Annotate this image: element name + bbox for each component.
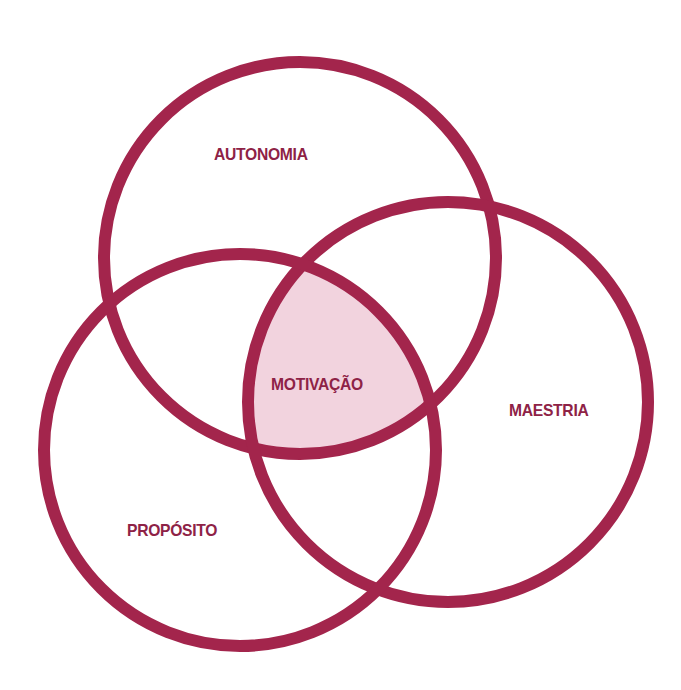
label-autonomia: AUTONOMIA <box>214 145 308 165</box>
venn-diagram <box>0 0 681 690</box>
label-maestria: MAESTRIA <box>509 401 588 421</box>
label-motivacao: MOTIVAÇÃO <box>271 375 363 395</box>
label-proposito: PROPÓSITO <box>127 521 217 541</box>
